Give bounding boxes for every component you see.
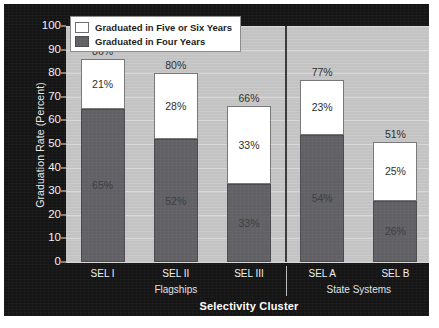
y-axis-tick-mark: [61, 73, 66, 74]
bar-segment-value: 33%: [228, 139, 270, 151]
y-axis-tick-label: 90: [48, 44, 61, 56]
x-axis-tick-label-sel-iii: SEL III: [234, 268, 264, 279]
bar-segment-five-or-six-years: 33%: [227, 106, 271, 184]
x-axis-tick-label-sel-b: SEL B: [381, 268, 409, 279]
y-axis-tick-label: 40: [48, 162, 61, 174]
bar-segment-five-or-six-years: 21%: [81, 59, 125, 109]
legend-item: Graduated in Five or Six Years: [75, 20, 232, 34]
bar-segment-value: 21%: [82, 78, 124, 90]
bar-total-label: 66%: [217, 92, 281, 104]
chart-legend: Graduated in Five or Six Years Graduated…: [70, 16, 241, 52]
y-axis-tick-label: 60: [48, 115, 61, 127]
bar-sel-a: 54%23%77%: [300, 80, 344, 262]
y-axis-tick-mark: [61, 238, 66, 239]
bar-segment-value: 33%: [228, 217, 270, 229]
legend-item: Graduated in Four Years: [75, 34, 232, 48]
bar-segment-five-or-six-years: 25%: [373, 142, 417, 201]
plot-area: 0102030405060708090100 65%21%86%52%28%80…: [66, 26, 429, 262]
bar-segment-five-or-six-years: 28%: [154, 73, 198, 139]
x-axis-title: Selectivity Cluster: [66, 300, 429, 312]
legend-label: Graduated in Five or Six Years: [95, 22, 232, 33]
x-axis-group-label-flagships: Flagships: [154, 284, 197, 295]
x-axis-tick-label-sel-a: SEL A: [308, 268, 335, 279]
x-axis-tick-label-sel-ii: SEL II: [162, 268, 189, 279]
bar-segment-value: 65%: [82, 179, 124, 191]
y-axis-tick-mark: [61, 167, 66, 168]
y-axis-title: Graduation Rate (Percent): [34, 45, 46, 245]
bar-segment-value: 52%: [155, 195, 197, 207]
y-axis-tick-mark: [61, 191, 66, 192]
legend-label: Graduated in Four Years: [95, 36, 205, 47]
bar-segment-four-years: 65%: [81, 109, 125, 262]
y-axis-tick-label: 20: [48, 209, 61, 221]
bar-sel-i: 65%21%86%: [81, 59, 125, 262]
group-divider: [285, 26, 287, 262]
y-axis-tick-mark: [61, 214, 66, 215]
bar-segment-five-or-six-years: 23%: [300, 80, 344, 134]
y-axis-tick-label: 70: [48, 91, 61, 103]
y-axis-tick-mark: [61, 96, 66, 97]
bar-segment-four-years: 33%: [227, 184, 271, 262]
bar-segment-four-years: 26%: [373, 201, 417, 262]
bar-segment-four-years: 52%: [154, 139, 198, 262]
bar-sel-b: 26%25%51%: [373, 142, 417, 262]
y-axis-tick-mark: [61, 144, 66, 145]
y-axis-tick-label: 100: [42, 20, 61, 32]
x-axis: SEL ISEL IISEL IIISEL ASEL B FlagshipsSt…: [66, 262, 429, 316]
bar-segment-four-years: 54%: [300, 135, 344, 262]
bar-segment-value: 28%: [155, 100, 197, 112]
y-axis-tick-mark: [61, 49, 66, 50]
bar-segment-value: 25%: [374, 165, 416, 177]
y-axis-tick-mark: [61, 120, 66, 121]
bar-total-label: 77%: [290, 66, 354, 78]
x-axis-group-label-state-systems: State Systems: [327, 284, 391, 295]
bar-segment-value: 23%: [301, 101, 343, 113]
chart-figure: Graduation Rate (Percent) 01020304050607…: [0, 0, 439, 328]
bar-segment-value: 54%: [301, 192, 343, 204]
y-axis-tick-label: 30: [48, 185, 61, 197]
legend-swatch-four-years-icon: [75, 36, 89, 47]
x-axis-tick-label-sel-i: SEL I: [91, 268, 115, 279]
y-axis-tick-label: 10: [48, 233, 61, 245]
bar-segment-value: 26%: [374, 225, 416, 237]
y-axis-tick-mark: [61, 26, 66, 27]
legend-swatch-five-or-six-years-icon: [75, 22, 89, 33]
y-axis-tick-label: 80: [48, 67, 61, 79]
chart-panel: Graduation Rate (Percent) 01020304050607…: [4, 4, 429, 316]
bar-sel-ii: 52%28%80%: [154, 73, 198, 262]
group-label-separator: [286, 266, 287, 296]
bar-sel-iii: 33%33%66%: [227, 106, 271, 262]
bar-total-label: 51%: [363, 128, 427, 140]
y-axis-tick-label: 50: [48, 138, 61, 150]
bar-total-label: 80%: [144, 59, 208, 71]
